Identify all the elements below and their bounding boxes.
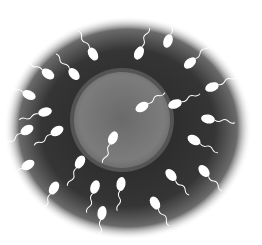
fertilization-illustration xyxy=(0,0,262,245)
egg-cell xyxy=(74,72,170,168)
